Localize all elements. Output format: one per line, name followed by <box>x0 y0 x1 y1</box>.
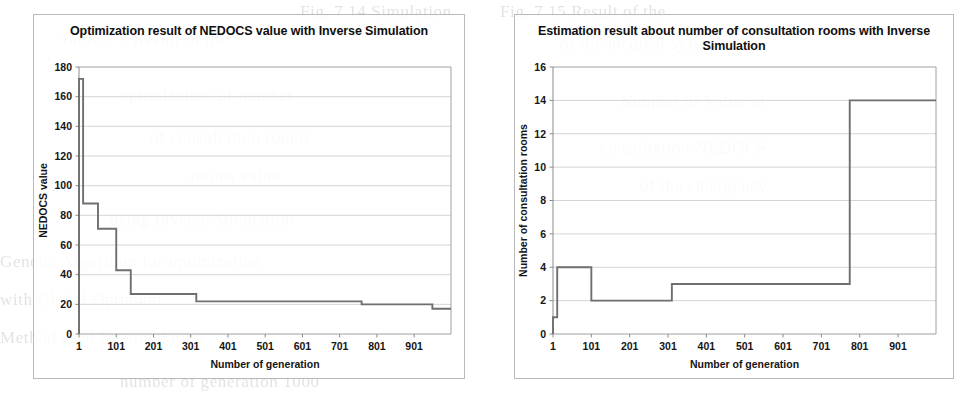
x-tick-label: 701 <box>813 340 831 352</box>
y-tick-label: 16 <box>534 61 546 73</box>
y-tick-label: 60 <box>60 239 72 251</box>
x-tick-label: 301 <box>659 340 677 352</box>
figure-row: Optimization result of NEDOCS value with… <box>0 0 963 400</box>
x-tick-label: 201 <box>621 340 639 352</box>
y-tick-label: 0 <box>66 328 72 340</box>
chart-card-optimization-nedocs: Optimization result of NEDOCS value with… <box>33 14 465 379</box>
x-tick-label: 401 <box>219 340 237 352</box>
chart-card-estimation-rooms: Estimation result about number of consul… <box>514 14 954 379</box>
x-tick-label: 501 <box>736 340 754 352</box>
y-tick-label: 160 <box>54 90 72 102</box>
x-tick-label: 901 <box>405 340 423 352</box>
x-tick-label: 301 <box>182 340 200 352</box>
x-tick-label: 601 <box>294 340 312 352</box>
x-tick-label: 601 <box>774 340 792 352</box>
y-tick-label: 20 <box>60 298 72 310</box>
data-series-line <box>553 100 936 334</box>
chart-plot-optimization-nedocs: 1101201301401501601701801901020406080100… <box>34 15 466 380</box>
y-tick-label: 8 <box>540 194 546 206</box>
y-tick-label: 4 <box>540 261 546 273</box>
x-tick-label: 401 <box>698 340 716 352</box>
x-tick-label: 1 <box>550 340 556 352</box>
x-tick-label: 701 <box>331 340 349 352</box>
x-tick-label: 1 <box>76 340 82 352</box>
x-tick-label: 901 <box>889 340 907 352</box>
y-tick-label: 6 <box>540 228 546 240</box>
y-tick-label: 10 <box>534 161 546 173</box>
y-tick-label: 0 <box>540 328 546 340</box>
y-tick-label: 100 <box>54 179 72 191</box>
x-tick-label: 501 <box>256 340 274 352</box>
x-axis-title: Number of generation <box>690 358 799 370</box>
x-tick-label: 101 <box>583 340 601 352</box>
y-axis-title: Number of consultation rooms <box>517 124 529 277</box>
chart-plot-estimation-rooms: 1101201301401501601701801901024681012141… <box>515 15 955 380</box>
y-tick-label: 120 <box>54 150 72 162</box>
y-tick-label: 14 <box>534 94 546 106</box>
x-tick-label: 101 <box>107 340 125 352</box>
y-tick-label: 180 <box>54 61 72 73</box>
data-series-line <box>79 79 451 334</box>
y-tick-label: 140 <box>54 120 72 132</box>
x-tick-label: 801 <box>851 340 869 352</box>
y-tick-label: 2 <box>540 294 546 306</box>
x-tick-label: 201 <box>145 340 163 352</box>
y-tick-label: 80 <box>60 209 72 221</box>
x-tick-label: 801 <box>368 340 386 352</box>
x-axis-title: Number of generation <box>210 358 319 370</box>
y-tick-label: 12 <box>534 128 546 140</box>
y-tick-label: 40 <box>60 268 72 280</box>
y-axis-title: NEDOCS value <box>37 163 49 238</box>
